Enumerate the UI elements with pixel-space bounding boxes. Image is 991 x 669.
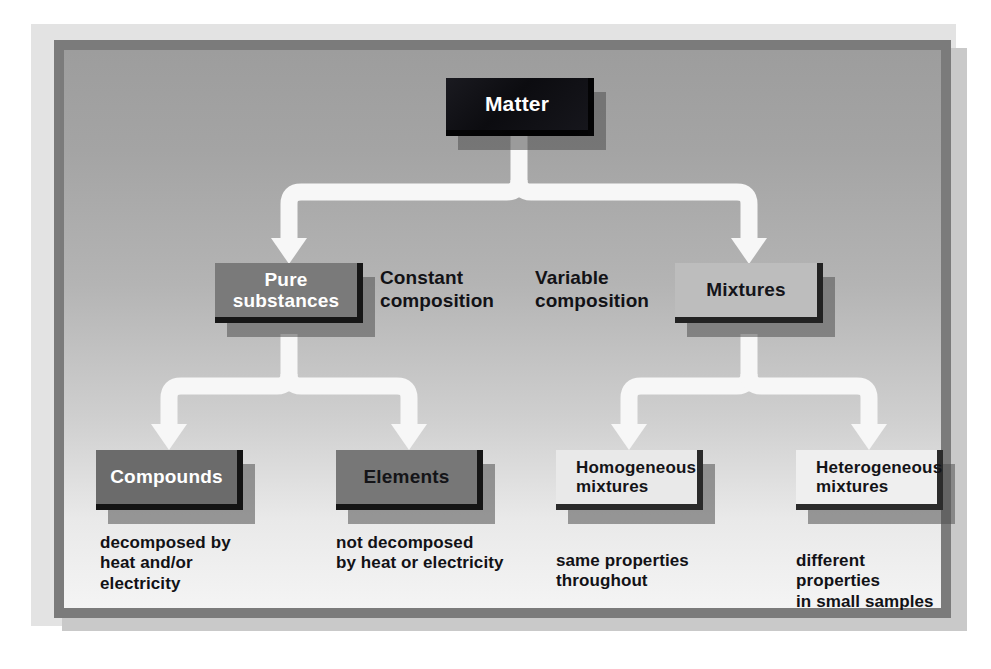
caption-compounds-line2: heat and/or — [100, 553, 193, 572]
node-heterogeneous-mixtures-line1: Heterogeneous — [816, 458, 942, 477]
caption-heterogeneous-mixtures: different properties in small samples — [796, 551, 941, 612]
connector-matter-right — [519, 180, 749, 240]
caption-elements: not decomposed by heat or electricity — [336, 533, 504, 574]
node-elements-box: Elements — [336, 450, 483, 510]
connector-mixtures-right — [749, 374, 869, 426]
annotation-variable-composition: Variable composition — [535, 266, 649, 312]
diagram-panel-inner: Matter Pure substances Mixtures — [64, 50, 941, 608]
caption-compounds-line1: decomposed by — [100, 533, 231, 552]
node-mixtures-box: Mixtures — [675, 263, 823, 323]
annotation-constant-composition-line1: Constant — [380, 267, 463, 288]
node-homogeneous-mixtures[interactable]: Homogeneous mixtures — [556, 450, 703, 510]
node-pure-substances-line1: Pure — [264, 269, 307, 290]
annotation-constant-composition-line2: composition — [380, 290, 494, 311]
node-compounds-label: Compounds — [96, 466, 237, 487]
node-pure-substances-label: Pure substances — [215, 269, 357, 312]
node-homogeneous-mixtures-label: Homogeneous mixtures — [556, 458, 697, 496]
node-homogeneous-mixtures-line2: mixtures — [576, 477, 648, 496]
annotation-constant-composition: Constant composition — [380, 266, 494, 312]
annotation-variable-composition-line2: composition — [535, 290, 649, 311]
connector-mixtures-stem — [629, 334, 749, 426]
node-homogeneous-mixtures-line1: Homogeneous — [576, 458, 696, 477]
caption-compounds-line3: electricity — [100, 574, 180, 593]
node-heterogeneous-mixtures-box: Heterogeneous mixtures — [796, 450, 943, 510]
arrowhead-compounds — [151, 424, 187, 450]
node-heterogeneous-mixtures[interactable]: Heterogeneous mixtures — [796, 450, 943, 510]
node-compounds[interactable]: Compounds — [96, 450, 243, 510]
annotation-variable-composition-line1: Variable — [535, 267, 609, 288]
arrowhead-mixtures — [731, 238, 767, 264]
connector-pure-stem — [169, 334, 289, 426]
caption-homogeneous-mixtures: same properties throughout — [556, 551, 689, 592]
caption-elements-line2: by heat or electricity — [336, 553, 504, 572]
node-pure-substances[interactable]: Pure substances — [215, 263, 363, 323]
caption-compounds: decomposed by heat and/or electricity — [100, 533, 231, 594]
node-matter[interactable]: Matter — [446, 78, 594, 136]
node-homogeneous-mixtures-box: Homogeneous mixtures — [556, 450, 703, 510]
caption-heterogeneous-mixtures-line1: different properties — [796, 551, 880, 590]
node-heterogeneous-mixtures-label: Heterogeneous mixtures — [796, 458, 937, 496]
node-elements[interactable]: Elements — [336, 450, 483, 510]
caption-elements-line1: not decomposed — [336, 533, 473, 552]
page-canvas: Matter Pure substances Mixtures — [0, 0, 991, 669]
node-mixtures[interactable]: Mixtures — [675, 263, 823, 323]
node-mixtures-label: Mixtures — [675, 279, 817, 300]
arrowhead-elements — [391, 424, 427, 450]
diagram-panel: Matter Pure substances Mixtures — [54, 40, 951, 618]
node-matter-box: Matter — [446, 78, 594, 136]
node-compounds-box: Compounds — [96, 450, 243, 510]
connector-pure-right — [289, 374, 409, 426]
node-heterogeneous-mixtures-line2: mixtures — [816, 477, 888, 496]
caption-homogeneous-mixtures-line1: same properties — [556, 551, 689, 570]
arrowhead-homogeneous-mixtures — [611, 424, 647, 450]
node-pure-substances-box: Pure substances — [215, 263, 363, 323]
node-matter-label: Matter — [446, 92, 588, 116]
node-elements-label: Elements — [336, 466, 477, 487]
caption-heterogeneous-mixtures-line2: in small samples — [796, 592, 934, 611]
arrowhead-pure-substances — [271, 238, 307, 264]
caption-homogeneous-mixtures-line2: throughout — [556, 571, 648, 590]
node-pure-substances-line2: substances — [233, 290, 340, 311]
arrowhead-heterogeneous-mixtures — [851, 424, 887, 450]
